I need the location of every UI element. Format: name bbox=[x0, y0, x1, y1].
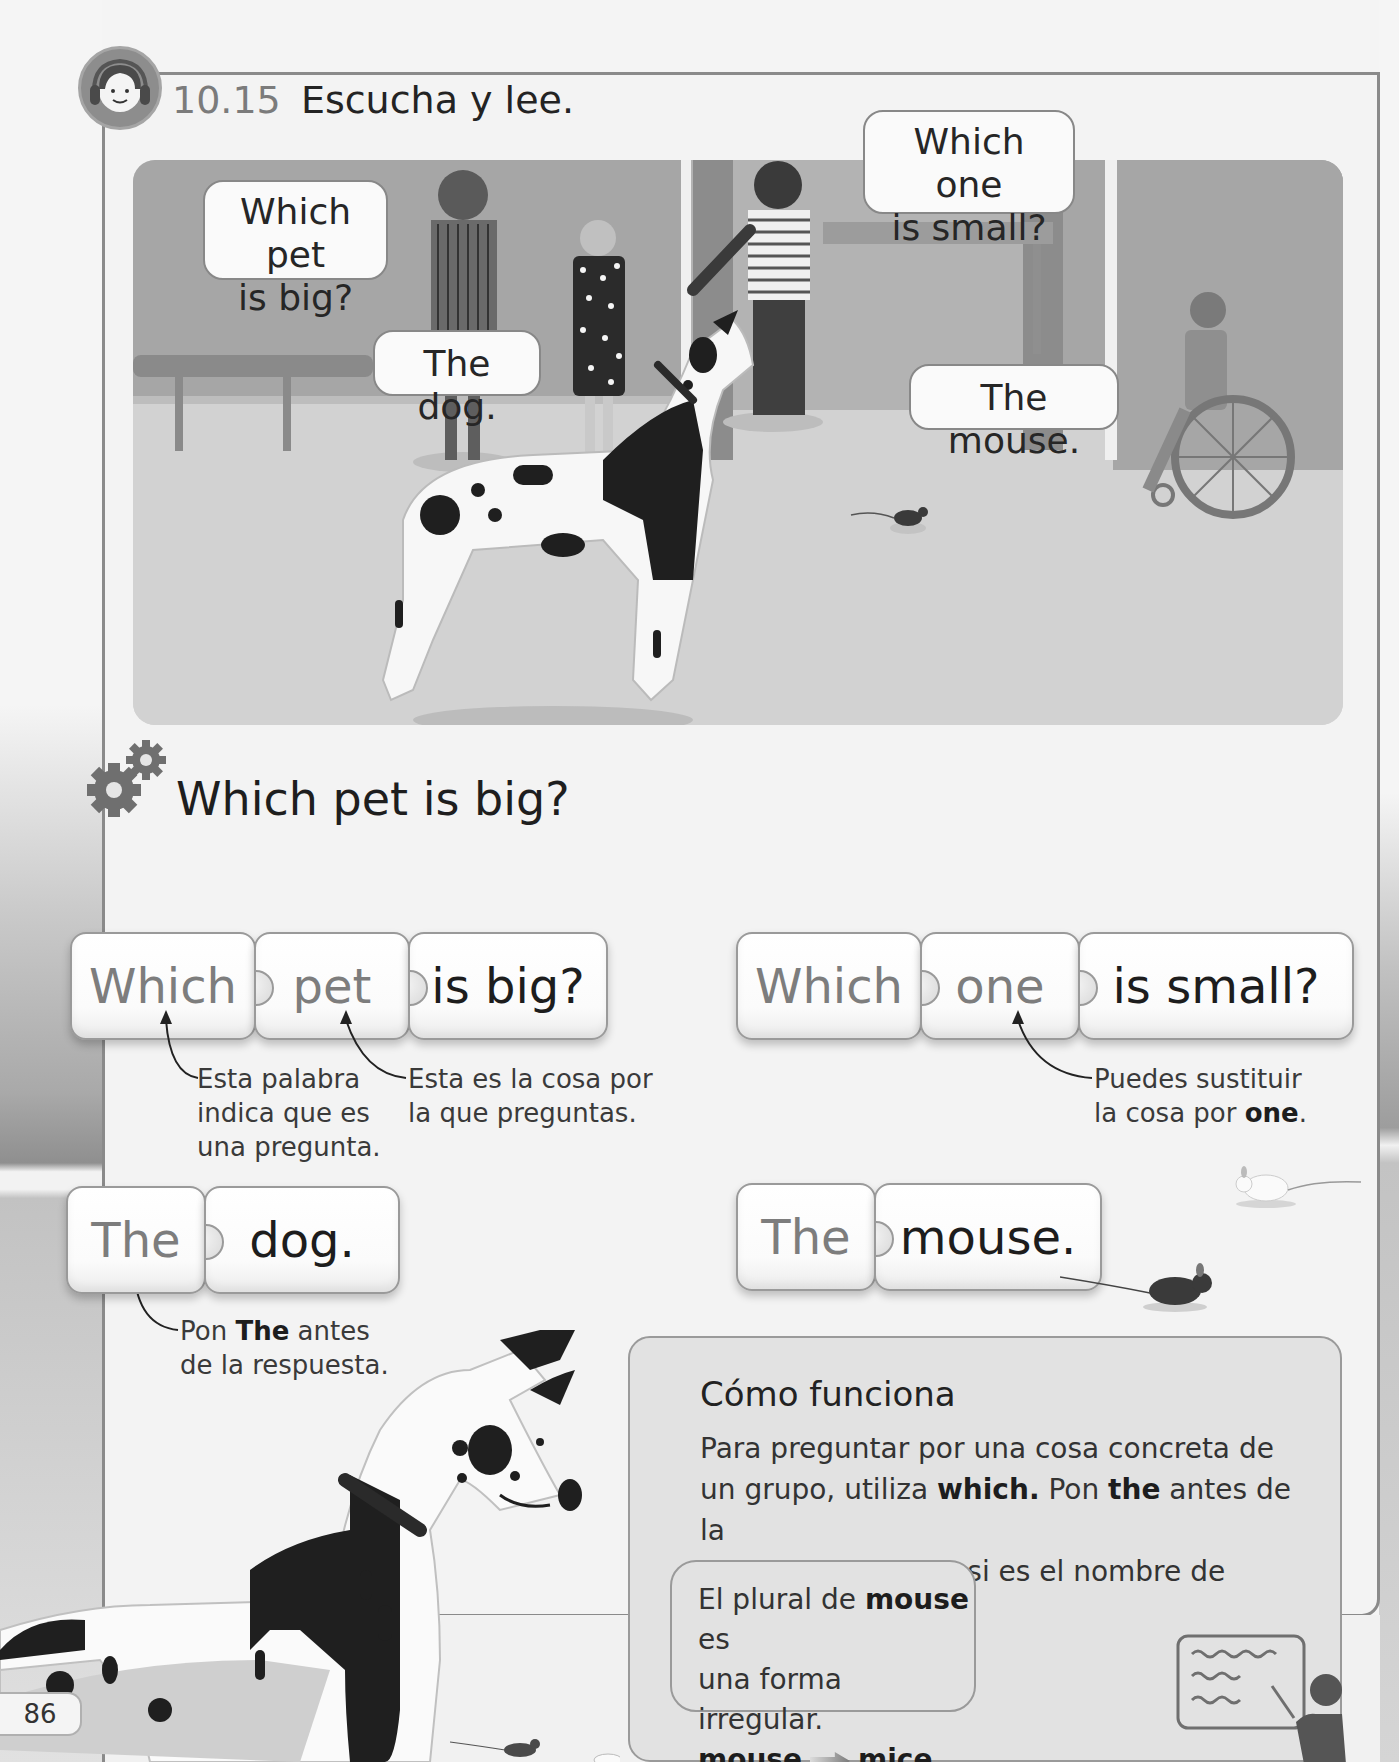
arrow-right-icon bbox=[810, 1752, 850, 1762]
note-one: Puedes sustituir la cosa por one. bbox=[1094, 1062, 1307, 1130]
puzzle-answer-1: The dog. bbox=[66, 1186, 398, 1294]
note-line: la cosa por one. bbox=[1094, 1096, 1307, 1130]
bubble-text-line: The mouse. bbox=[927, 376, 1101, 462]
tile-the: The bbox=[736, 1183, 876, 1291]
info-text: un grupo, utiliza bbox=[700, 1473, 937, 1506]
plural-text: El plural de bbox=[698, 1583, 865, 1616]
note-text: la cosa por bbox=[1094, 1098, 1245, 1128]
plural-example: mousemice bbox=[698, 1740, 974, 1762]
info-line: Para preguntar por una cosa concreta de bbox=[700, 1428, 1320, 1469]
page-backdrop-right bbox=[1379, 0, 1399, 1762]
note-line: Esta palabra bbox=[197, 1062, 381, 1096]
how-it-works-box: Cómo funciona Para preguntar por una cos… bbox=[628, 1336, 1342, 1762]
plural-note-box: El plural de mouse es una forma irregula… bbox=[670, 1560, 976, 1712]
tile-text: is big? bbox=[431, 958, 584, 1014]
info-line: un grupo, utiliza which. Pon the antes d… bbox=[700, 1469, 1320, 1551]
page-number: 86 bbox=[0, 1692, 82, 1736]
plural-bold: mouse bbox=[865, 1583, 969, 1616]
note-line: Esta es la cosa por bbox=[408, 1062, 653, 1096]
tile-text: Which bbox=[89, 958, 237, 1014]
info-title: Cómo funciona bbox=[700, 1374, 956, 1414]
arrow-one-note bbox=[1012, 1010, 1092, 1090]
info-bold: the bbox=[1108, 1473, 1160, 1506]
note-text: . bbox=[1299, 1098, 1307, 1128]
bubble-text-line: Which pet bbox=[221, 190, 370, 276]
tile-text: mouse. bbox=[900, 1209, 1076, 1265]
dog-illustration bbox=[0, 1330, 620, 1762]
dark-mouse-illustration bbox=[1060, 1255, 1230, 1315]
tile-text: The bbox=[761, 1209, 850, 1265]
info-text: Pon bbox=[1040, 1473, 1109, 1506]
plural-form: mice bbox=[858, 1743, 932, 1762]
plural-line: El plural de mouse es bbox=[698, 1580, 974, 1660]
tile-text: is small? bbox=[1113, 958, 1320, 1014]
tile-text: one bbox=[955, 958, 1044, 1014]
bubble-text-line: The dog. bbox=[391, 342, 523, 428]
tile-text: dog. bbox=[249, 1212, 355, 1268]
note-line: indica que es bbox=[197, 1096, 381, 1130]
bubble-text-line: is big? bbox=[221, 276, 370, 319]
gears-icon bbox=[84, 738, 174, 818]
tile-text: The bbox=[91, 1212, 180, 1268]
exercise-number: 10.15 bbox=[172, 78, 281, 122]
scene-illustration: Which pet is big? The dog. The mouse. bbox=[133, 160, 1343, 725]
tile-text: Which bbox=[755, 958, 903, 1014]
tile-which: Which bbox=[736, 932, 922, 1040]
speech-bubble-which-one: Which one is small? bbox=[863, 110, 1075, 214]
exercise-instruction: Escucha y lee. bbox=[301, 78, 574, 122]
note-line: una pregunta. bbox=[197, 1130, 381, 1164]
puzzle-question-1: Which pet is big? bbox=[70, 932, 606, 1040]
tile-is-small: is small? bbox=[1078, 932, 1354, 1040]
note-line: la que preguntas. bbox=[408, 1096, 653, 1130]
note-which: Esta palabra indica que es una pregunta. bbox=[197, 1062, 381, 1164]
info-bold: which. bbox=[937, 1473, 1040, 1506]
bubble-text-line: is small? bbox=[881, 206, 1057, 249]
grammar-title: Which pet is big? bbox=[176, 772, 570, 826]
bubble-text-line: Which one bbox=[881, 120, 1057, 206]
headphones-icon[interactable] bbox=[78, 46, 162, 130]
speech-bubble-which-pet: Which pet is big? bbox=[203, 180, 388, 280]
speech-bubble-the-mouse: The mouse. bbox=[909, 364, 1119, 430]
note-bold: one bbox=[1245, 1098, 1299, 1128]
tile-the: The bbox=[66, 1186, 206, 1294]
tile-dog: dog. bbox=[204, 1186, 400, 1294]
plural-line: una forma irregular. bbox=[698, 1660, 974, 1740]
tile-text: pet bbox=[293, 958, 372, 1014]
plural-singular: mouse bbox=[698, 1743, 802, 1762]
tile-is-big: is big? bbox=[408, 932, 608, 1040]
teacher-board-icon bbox=[1176, 1630, 1346, 1762]
puzzle-answer-2: The mouse. bbox=[736, 1183, 1100, 1291]
white-mouse-illustration bbox=[1226, 1160, 1366, 1210]
exercise-title: 10.15 Escucha y lee. bbox=[172, 78, 574, 122]
plural-text: es bbox=[698, 1623, 730, 1656]
note-pet: Esta es la cosa por la que preguntas. bbox=[408, 1062, 653, 1130]
note-line: Puedes sustituir bbox=[1094, 1062, 1307, 1096]
speech-bubble-the-dog: The dog. bbox=[373, 330, 541, 396]
